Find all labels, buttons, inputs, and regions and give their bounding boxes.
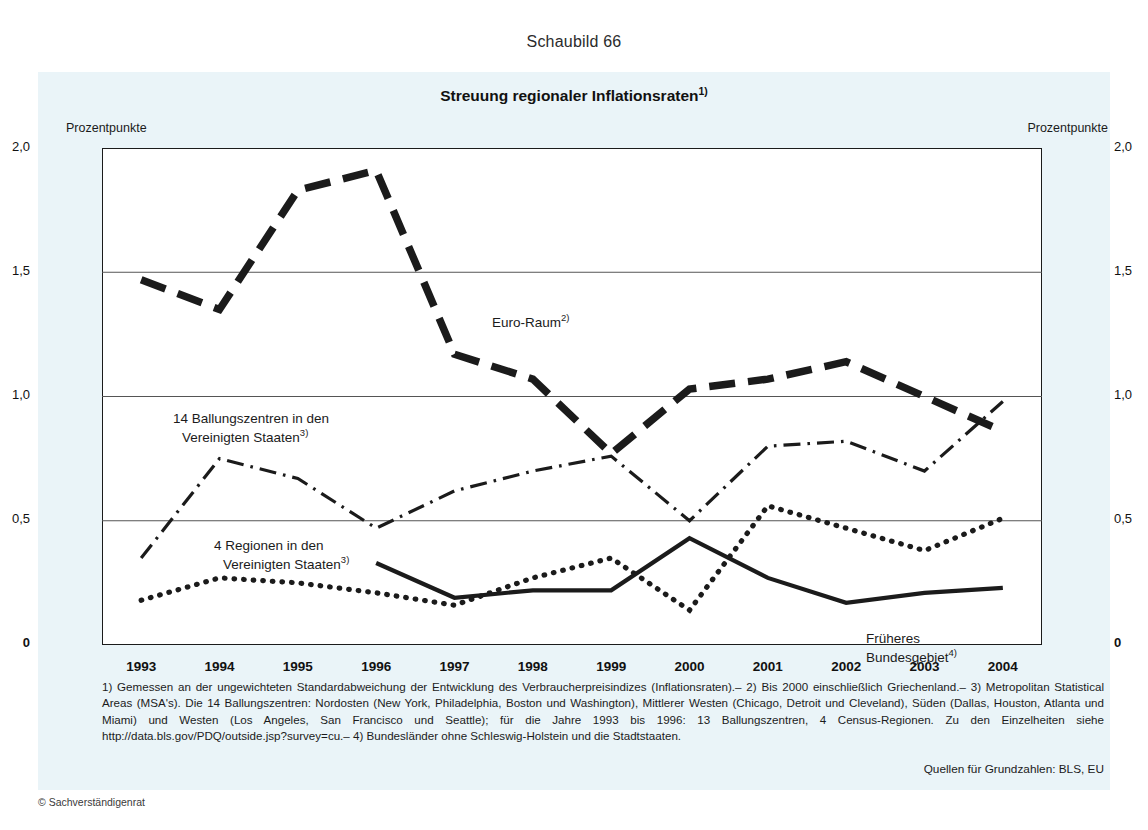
gridlines <box>102 272 1042 521</box>
series-label-euro-raum-text: Euro-Raum <box>492 315 561 330</box>
y-tick-left-2: 1,0 <box>0 387 30 402</box>
figure-page: Schaubild 66 Streuung regionaler Inflati… <box>0 0 1148 830</box>
series-label-euro-raum: Euro-Raum2) <box>492 312 569 331</box>
copyright-notice: © Sachverständigenrat <box>38 796 145 808</box>
series-label-regionen: 4 Regionen in den Vereinigten Staaten3) <box>214 537 349 573</box>
x-tick-label-1998: 1998 <box>503 659 563 674</box>
series-label-ballungszentren: 14 Ballungszentren in den Vereinigten St… <box>173 410 329 446</box>
series-label-ballungszentren-sup: 3) <box>300 427 308 438</box>
y-tick-right-1: 1,5 <box>1114 263 1132 278</box>
series-label-regionen-line1: 4 Regionen in den <box>214 537 349 554</box>
y-tick-left-1: 1,5 <box>0 263 30 278</box>
series-label-bundesgebiet-line1: Früheres <box>866 630 957 647</box>
y-tick-left-0: 2,0 <box>0 139 30 154</box>
series-label-euro-raum-sup: 2) <box>561 312 569 323</box>
x-tick-label-2003: 2003 <box>895 659 955 674</box>
y-tick-right-3: 0,5 <box>1114 511 1132 526</box>
x-tick-label-1995: 1995 <box>268 659 328 674</box>
x-tick-label-1996: 1996 <box>346 659 406 674</box>
x-tick-label-2004: 2004 <box>973 659 1033 674</box>
series-label-bundesgebiet-sup: 4) <box>949 647 957 658</box>
series-label-regionen-sup: 3) <box>341 554 349 565</box>
series-label-ballungszentren-line2-wrap: Vereinigten Staaten3) <box>173 427 329 446</box>
plot-area: 2,0 1,5 1,0 0,5 0 2,0 1,5 1,0 0,5 0 Euro… <box>102 148 1042 645</box>
y-axis-unit-left: Prozentpunkte <box>66 121 147 135</box>
y-axis-unit-right: Prozentpunkte <box>1027 121 1108 135</box>
y-tick-right-0: 2,0 <box>1114 139 1132 154</box>
y-tick-right-4: 0 <box>1114 635 1121 650</box>
chart-title-footnote-marker: 1) <box>699 85 708 97</box>
figure-number: Schaubild 66 <box>0 33 1148 51</box>
chart-title-text: Streuung regionaler Inflationsraten <box>440 87 698 104</box>
y-tick-left-3: 0,5 <box>0 511 30 526</box>
x-tick-label-2001: 2001 <box>738 659 798 674</box>
series-label-regionen-line2-wrap: Vereinigten Staaten3) <box>214 554 349 573</box>
x-tick-label-2000: 2000 <box>660 659 720 674</box>
x-tick-label-1999: 1999 <box>581 659 641 674</box>
y-tick-left-4: 0 <box>0 635 30 650</box>
x-tick-label-1993: 1993 <box>111 659 171 674</box>
chart-title: Streuung regionaler Inflationsraten1) <box>38 85 1110 105</box>
y-tick-right-2: 1,0 <box>1114 387 1132 402</box>
series-label-regionen-line2: Vereinigten Staaten <box>223 557 341 572</box>
footnotes: 1) Gemessen an der ungewichteten Standar… <box>102 679 1104 745</box>
source-line: Quellen für Grundzahlen: BLS, EU <box>924 762 1104 776</box>
chart-panel: Streuung regionaler Inflationsraten1) Pr… <box>38 72 1110 790</box>
series-label-ballungszentren-line2: Vereinigten Staaten <box>182 430 300 445</box>
x-tick-label-1997: 1997 <box>425 659 485 674</box>
x-tick-label-1994: 1994 <box>190 659 250 674</box>
series-label-ballungszentren-line1: 14 Ballungszentren in den <box>173 410 329 427</box>
x-tick-label-2002: 2002 <box>816 659 876 674</box>
